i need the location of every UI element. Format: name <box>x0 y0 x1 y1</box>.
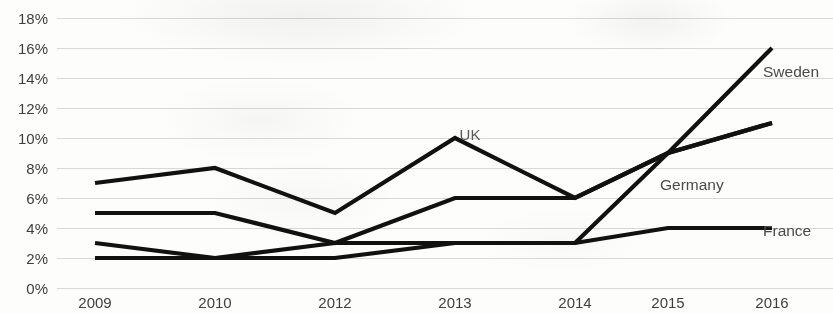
label-france: France <box>763 222 811 239</box>
x-tick-2012: 2012 <box>318 294 351 311</box>
y-tick-4: 4% <box>26 220 48 237</box>
x-tick-2016: 2016 <box>755 294 788 311</box>
y-tick-10: 10% <box>18 130 48 147</box>
chart-canvas: 18% 16% 14% 12% 10% 8% 6% 4% 2% 0% 2009 … <box>0 0 833 313</box>
label-sweden: Sweden <box>763 63 819 80</box>
y-tick-16: 16% <box>18 40 48 57</box>
y-tick-2: 2% <box>26 250 48 267</box>
y-tick-14: 14% <box>18 70 48 87</box>
x-tick-2009: 2009 <box>78 294 111 311</box>
label-uk: UK <box>460 126 481 143</box>
label-germany: Germany <box>660 176 724 193</box>
x-tick-2010: 2010 <box>198 294 231 311</box>
x-tick-2014: 2014 <box>558 294 591 311</box>
gridlines <box>57 18 833 288</box>
y-tick-18: 18% <box>18 10 48 27</box>
x-axis-tick-labels: 2009 2010 2012 2013 2014 2015 2016 <box>78 294 788 311</box>
y-tick-8: 8% <box>26 160 48 177</box>
y-tick-0: 0% <box>26 280 48 297</box>
series-annotations: UK Sweden Germany France <box>460 63 819 239</box>
line-chart: 18% 16% 14% 12% 10% 8% 6% 4% 2% 0% 2009 … <box>0 0 833 313</box>
x-tick-2015: 2015 <box>651 294 684 311</box>
y-tick-6: 6% <box>26 190 48 207</box>
y-axis-tick-labels: 18% 16% 14% 12% 10% 8% 6% 4% 2% 0% <box>18 10 48 297</box>
y-tick-12: 12% <box>18 100 48 117</box>
data-series-group <box>95 48 772 258</box>
x-tick-2013: 2013 <box>438 294 471 311</box>
